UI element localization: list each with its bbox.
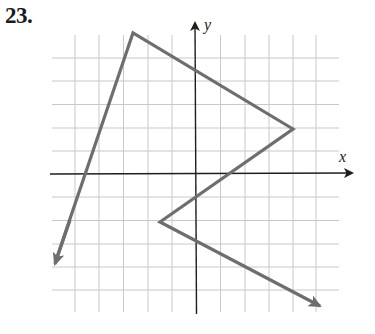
x-axis-label: x <box>338 148 346 165</box>
coordinate-graph: x y <box>0 0 375 334</box>
graph-curve <box>55 33 320 306</box>
axes <box>50 23 352 314</box>
left-arrow-end <box>55 220 70 264</box>
y-axis-label: y <box>202 16 212 34</box>
y-axis <box>195 23 197 314</box>
x-axis <box>50 173 352 174</box>
